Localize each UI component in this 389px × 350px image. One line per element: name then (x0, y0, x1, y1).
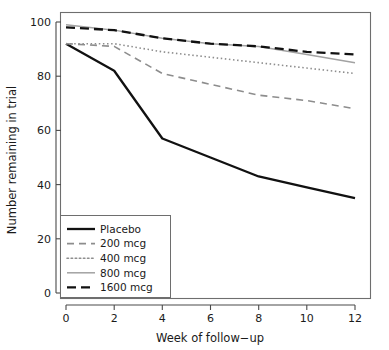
x-tick-label-6: 6 (207, 312, 214, 325)
legend-label-400-mcg: 400 mcg (100, 252, 146, 264)
y-tick-label-0: 0 (44, 287, 51, 300)
x-tick-label-10: 10 (300, 312, 314, 325)
legend-label-800-mcg: 800 mcg (100, 267, 146, 279)
y-tick-label-20: 20 (37, 233, 51, 246)
y-tick-label-100: 100 (30, 16, 51, 29)
y-tick-label-60: 60 (37, 124, 51, 137)
y-tick-label-80: 80 (37, 70, 51, 83)
legend[interactable]: Placebo200 mcg400 mcg800 mcg1600 mcg (61, 216, 171, 298)
x-axis-title: Week of follow−up (156, 331, 264, 345)
line-chart-figure: 100 80 60 40 20 0 0 2 4 6 8 10 12 Week o… (0, 0, 389, 350)
legend-label-1600-mcg: 1600 mcg (100, 281, 153, 293)
x-tick-label-8: 8 (255, 312, 262, 325)
x-tick-label-2: 2 (111, 312, 118, 325)
y-tick-label-40: 40 (37, 179, 51, 192)
legend-label-placebo: Placebo (100, 223, 141, 235)
x-tick-label-12: 12 (348, 312, 362, 325)
y-axis-title: Number remaining in trial (5, 86, 19, 234)
x-tick-label-0: 0 (63, 312, 70, 325)
x-tick-label-4: 4 (159, 312, 166, 325)
legend-label-200-mcg: 200 mcg (100, 237, 146, 249)
